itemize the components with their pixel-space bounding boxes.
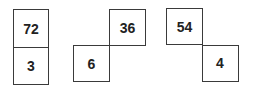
figure-1-top-box: 72 [13, 9, 49, 48]
figure-3-bottom-number: 4 [216, 55, 224, 71]
figure-1-bottom-box: 3 [13, 47, 49, 85]
figure-3-top-number: 54 [177, 19, 193, 35]
figure-2-top-box: 36 [109, 9, 146, 46]
figure-2-bottom-number: 6 [88, 56, 96, 72]
figure-2-bottom-box: 6 [73, 45, 110, 82]
figure-1-bottom-number: 3 [27, 58, 35, 74]
figure-3-bottom-box: 4 [202, 45, 239, 82]
figure-2-top-number: 36 [120, 20, 136, 36]
figure-1-top-number: 72 [23, 21, 39, 37]
figure-3-top-box: 54 [166, 8, 203, 45]
